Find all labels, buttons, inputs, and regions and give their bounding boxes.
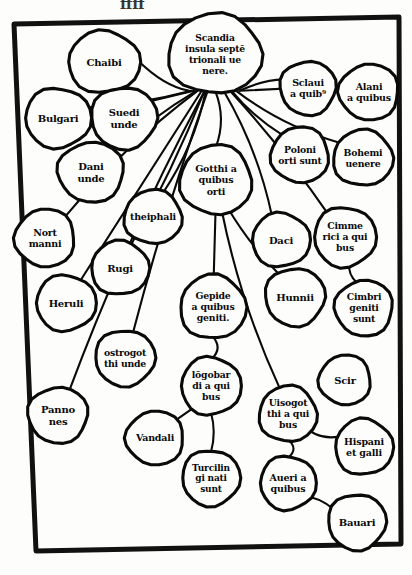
node-label-line: gi nati: [195, 473, 227, 483]
node-label-line: quibus: [271, 483, 306, 494]
edge-longobardi-to-turcilingi: [211, 413, 214, 452]
node-pannones[interactable]: Pannones: [28, 387, 88, 443]
node-label-line: thi a qui: [267, 408, 310, 419]
node-alani[interactable]: Alania quibus: [337, 64, 397, 120]
node-label-line: Scir: [334, 375, 357, 386]
node-label-line: nes: [49, 416, 68, 427]
node-label-line: Gepide: [195, 290, 230, 301]
node-label-line: geniti: [349, 302, 379, 313]
node-scandia[interactable]: Scandiainsula septētrionali uenere.: [169, 13, 263, 93]
node-dani[interactable]: Daniunde: [57, 142, 123, 202]
node-turcilingi[interactable]: Turcilingi natisunt: [183, 451, 241, 507]
node-label-line: uenere: [346, 158, 381, 169]
node-label-line: rici a qui: [323, 231, 369, 242]
node-chaibi[interactable]: Chaibi: [69, 30, 141, 93]
node-label-line: Dani: [78, 161, 104, 172]
node-label-line: manni: [29, 238, 62, 249]
node-label-line: unde: [110, 119, 137, 130]
node-label-line: a quib⁹: [290, 88, 326, 99]
node-label-line: Turcilin: [192, 463, 230, 473]
edge-gepide-to-longobardi: [212, 336, 218, 359]
node-rugi[interactable]: Rugi: [92, 240, 150, 294]
node-label-line: nere.: [202, 65, 227, 76]
node-label-line: orti: [207, 186, 226, 197]
node-bohemi[interactable]: Bohemiuenere: [334, 129, 394, 185]
node-label-line: Aueri a: [269, 472, 307, 483]
node-daci[interactable]: Daci: [253, 212, 311, 267]
node-label-line: insula septē: [185, 43, 245, 54]
node-aueri[interactable]: Aueri aquibus: [260, 456, 316, 511]
edge-scandia-to-poloni: [232, 91, 283, 135]
node-uisogotthi[interactable]: Uisogotthi a quibus: [259, 385, 317, 441]
node-label-line: theiphali: [130, 211, 177, 222]
node-label-line: Panno: [41, 404, 75, 415]
node-poloni[interactable]: Poloniorti sunt: [270, 127, 328, 183]
node-label-line: Vandali: [135, 432, 175, 443]
node-scir[interactable]: Scir: [318, 355, 370, 405]
node-label-line: di a qui: [192, 380, 230, 391]
node-label-line: Gotthi a: [195, 163, 237, 174]
node-label-line: Scandia: [195, 32, 235, 43]
genealogy-diagram: Scandiainsula septētrionali uenere.Chaib…: [0, 0, 412, 575]
node-label-line: Chaibi: [86, 57, 122, 68]
node-label-line: Hispani: [344, 436, 384, 447]
node-label-line: Uisogot: [269, 397, 309, 408]
node-label-line: orti sunt: [278, 155, 322, 166]
node-label-line: trionali ue: [189, 54, 241, 65]
node-label-line: bus: [279, 419, 297, 430]
node-label-line: Heruli: [49, 298, 84, 309]
node-vandali[interactable]: Vandali: [124, 411, 182, 464]
edge-gotthi-to-gepide: [214, 212, 216, 277]
node-label-line: Daci: [269, 235, 294, 246]
node-label-line: et galli: [346, 447, 382, 458]
node-label-line: Bauari: [339, 517, 376, 528]
node-label-line: unde: [77, 173, 104, 184]
woodcut-page: ffff Scandiainsula septētrionali uenere.…: [0, 0, 412, 575]
node-label-line: Cimbri: [347, 291, 382, 302]
node-heruli[interactable]: Heruli: [36, 275, 96, 332]
node-label-line: quibus: [199, 174, 234, 185]
node-label-line: a quibus: [192, 301, 235, 312]
node-label-line: Rugi: [107, 263, 133, 274]
node-gepide[interactable]: Gepidea quibusgeniti.: [181, 274, 247, 338]
node-gotthi[interactable]: Gotthi aquibusorti: [180, 145, 252, 215]
node-label-line: Poloni: [284, 144, 316, 155]
node-label-line: Nort: [33, 227, 57, 238]
node-hunnii[interactable]: Hunnii: [266, 269, 326, 327]
node-label-line: ostrogot: [104, 347, 147, 358]
node-label-line: Cimme: [327, 220, 363, 231]
node-bulgari[interactable]: Bulgari: [26, 88, 92, 149]
node-label-line: geniti.: [197, 312, 229, 323]
node-label-line: Hunnii: [276, 292, 314, 303]
node-ostrogotthi[interactable]: ostrogotthi unde: [96, 331, 156, 387]
node-label-line: bus: [336, 242, 354, 253]
edge-scandia-to-gotthi: [215, 91, 221, 148]
node-label-line: Alani: [355, 81, 383, 92]
node-suedi[interactable]: Suediunde: [92, 88, 158, 150]
node-label-line: lōgobar: [192, 369, 231, 380]
node-label-line: Bulgari: [38, 113, 79, 124]
node-label-line: Sclaui: [292, 77, 324, 88]
node-label-line: a quibus: [347, 92, 391, 103]
node-theiphali[interactable]: theiphali: [124, 189, 182, 243]
node-label-line: sunt: [353, 313, 376, 324]
node-cimmerici[interactable]: Cimmerici a quibus: [315, 208, 377, 269]
node-label-line: bus: [202, 391, 220, 402]
node-label-line: sunt: [200, 484, 223, 494]
node-label-line: Bohemi: [344, 147, 384, 158]
node-sclaui[interactable]: Sclauia quib⁹: [280, 61, 336, 115]
node-label-line: Suedi: [109, 107, 140, 118]
node-label-line: thi unde: [104, 358, 146, 369]
node-longobardi[interactable]: lōgobardi a quibus: [181, 356, 241, 415]
node-cimbri[interactable]: Cimbrigenitisunt: [334, 280, 392, 336]
node-hispani[interactable]: Hispaniet galli: [336, 418, 394, 474]
